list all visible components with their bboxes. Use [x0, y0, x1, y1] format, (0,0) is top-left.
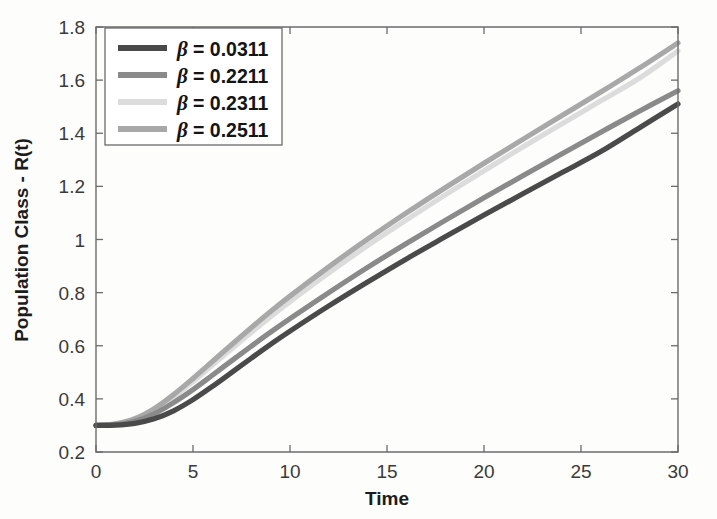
x-tick-label: 0 [91, 461, 102, 482]
legend-label-1: = 0.2211 [193, 65, 269, 87]
legend-beta-symbol-3: β [176, 118, 188, 142]
y-tick-label: 0.2 [59, 442, 85, 463]
y-axis-title: Population Class - R(t) [11, 138, 32, 342]
legend-beta-symbol-0: β [176, 37, 188, 61]
y-tick-label: 0.8 [59, 283, 85, 304]
y-tick-label: 1.4 [59, 123, 86, 144]
y-tick-label: 1.8 [59, 17, 85, 38]
x-axis-title: Time [365, 488, 409, 509]
y-tick-label: 0.6 [59, 336, 85, 357]
chart-svg: 051015202530 0.20.40.60.811.21.41.61.8 β… [0, 0, 717, 519]
y-tick-labels: 0.20.40.60.811.21.41.61.8 [59, 17, 86, 463]
legend-label-3: = 0.2511 [193, 119, 269, 141]
x-tick-label: 30 [667, 461, 688, 482]
legend-label-2: = 0.2311 [193, 92, 269, 114]
legend-beta-symbol-1: β [176, 64, 188, 88]
x-tick-label: 10 [279, 461, 300, 482]
x-tick-labels: 051015202530 [91, 461, 689, 482]
line-chart: 051015202530 0.20.40.60.811.21.41.61.8 β… [0, 0, 717, 519]
chart-legend: β= 0.0311β= 0.2211β= 0.2311β= 0.2511 [105, 28, 282, 145]
y-tick-label: 1.6 [59, 70, 85, 91]
chart-page: 051015202530 0.20.40.60.811.21.41.61.8 β… [0, 0, 717, 519]
legend-label-0: = 0.0311 [193, 38, 269, 60]
x-tick-label: 5 [188, 461, 199, 482]
x-tick-label: 25 [570, 461, 591, 482]
y-tick-label: 1.2 [59, 176, 85, 197]
y-tick-label: 1 [74, 230, 85, 251]
x-tick-label: 15 [376, 461, 397, 482]
legend-beta-symbol-2: β [176, 91, 188, 115]
series-line-0 [96, 104, 678, 425]
y-tick-label: 0.4 [59, 389, 86, 410]
x-tick-label: 20 [473, 461, 494, 482]
